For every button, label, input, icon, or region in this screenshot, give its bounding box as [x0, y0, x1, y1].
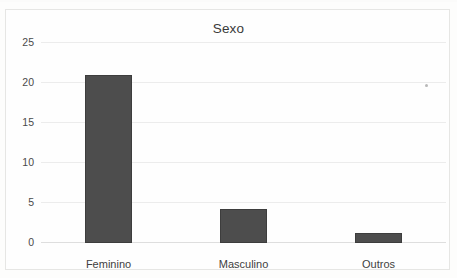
y-axis-tick-label: 0 [28, 236, 34, 248]
category-label-outros: Outros [362, 258, 395, 270]
chart-title: Sexo [6, 21, 451, 36]
category-label-masculino: Masculino [219, 258, 269, 270]
scan-top-edge [0, 0, 457, 2]
bar-masculino[interactable] [220, 209, 267, 243]
chart-frame: Sexo 0510152025 FemininoMasculinoOutros [5, 9, 450, 270]
y-axis-tick-label: 10 [22, 156, 34, 168]
bar-feminino[interactable] [85, 75, 132, 243]
plot-area: 0510152025 [41, 43, 446, 243]
y-axis-tick-label: 5 [28, 196, 34, 208]
y-axis-tick-label: 20 [22, 76, 34, 88]
scan-artifact-speck [425, 84, 428, 87]
y-axis-tick-label: 15 [22, 116, 34, 128]
gridline-25: 25 [41, 42, 446, 43]
scanned-page: Sexo 0510152025 FemininoMasculinoOutros [0, 0, 457, 278]
bar-outros[interactable] [355, 233, 402, 243]
y-axis-tick-label: 25 [22, 36, 34, 48]
category-label-feminino: Feminino [86, 258, 131, 270]
